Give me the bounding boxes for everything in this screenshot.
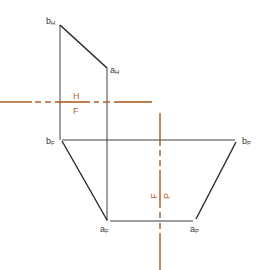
plane-label-F-horizontal: F [73,106,79,116]
label-bP: bP [242,136,251,146]
plane-label-P: P [162,193,172,199]
label-aP: aP [190,224,199,234]
line-bF-aF [62,141,107,220]
label-aF: aF [100,224,109,234]
label-bH: bH [46,16,55,26]
label-aH: aH [110,65,119,75]
label-bF: bF [46,136,55,146]
plane-label-H: H [73,91,80,101]
plane-label-F-vertical: F [149,193,159,199]
object-lines [60,25,236,221]
line-bH-aH [60,25,107,68]
orthographic-projection-diagram: bH aH bF bP aF aP H F F P [0,0,263,270]
line-bP-aP [196,142,236,219]
